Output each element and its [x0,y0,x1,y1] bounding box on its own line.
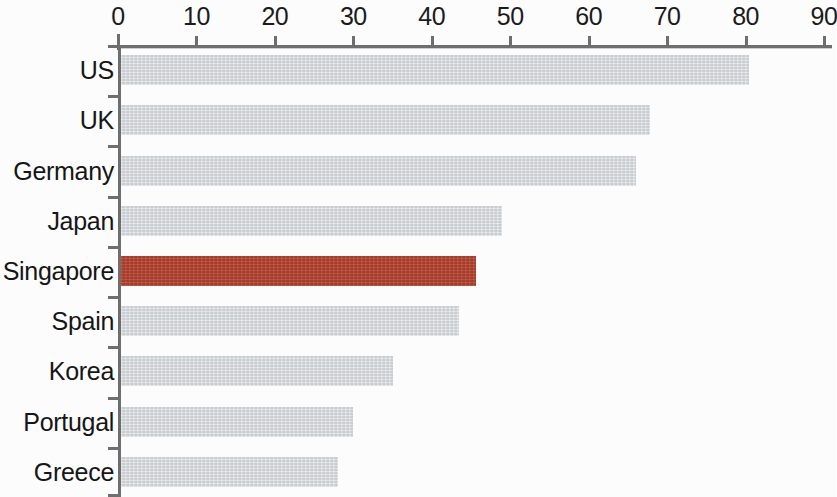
bar-portugal [121,407,353,437]
bar-korea [121,356,393,386]
bar-singapore [121,256,476,286]
bar-greece [121,457,338,487]
bar-us [121,55,749,85]
bar-uk [121,105,650,135]
bar-japan [121,206,502,236]
bar-germany [121,156,636,186]
bar-spain [121,306,459,336]
